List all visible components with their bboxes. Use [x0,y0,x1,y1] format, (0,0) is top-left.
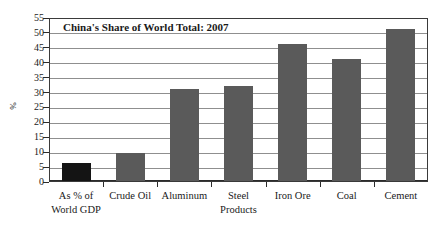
bar [170,89,199,181]
x-axis-tick-mark [374,182,375,187]
y-axis-tick-mark [43,18,49,19]
x-axis-category-label-line: Crude Oil [103,189,157,203]
chart-title: China's Share of World Total: 2007 [57,20,235,36]
x-axis-category-label-line: Products [211,203,265,217]
x-axis-category-label: SteelProducts [211,189,265,217]
bar [224,86,253,181]
y-axis-tick-mark [43,32,49,33]
x-axis-category-label-line: As % of [49,189,103,203]
x-axis-tick-mark [157,182,158,187]
x-axis-category-label: As % ofWorld GDP [49,189,103,217]
y-axis-tick-label: 45 [20,43,44,53]
y-axis-tick-label: 25 [20,102,44,112]
y-axis-tick-label: 40 [20,58,44,68]
x-axis-category-label: Iron Ore [266,189,320,203]
x-axis-tick-mark [320,182,321,187]
x-axis-tick-mark [266,182,267,187]
y-axis-tick-mark [43,107,49,108]
x-axis-category-label: Cement [374,189,428,203]
y-axis-tick-mark [43,137,49,138]
x-axis-category-labels: As % ofWorld GDPCrude OilAluminumSteelPr… [49,189,428,231]
bar [332,59,361,181]
bars-layer [49,18,428,182]
x-axis-category-label-line: Cement [374,189,428,203]
y-axis-tick-mark [43,62,49,63]
y-axis-tick-label: 35 [20,73,44,83]
bar-chart: % 0510152025303540455055 China's Share o… [0,0,436,233]
y-axis-tick-mark [43,77,49,78]
y-axis-tick-label: 50 [20,28,44,38]
y-axis-tick-mark [43,47,49,48]
x-axis-category-label-line: Coal [320,189,374,203]
y-axis-tick-mark [43,92,49,93]
y-axis-tick-mark [43,182,49,183]
x-axis-category-label: Crude Oil [103,189,157,203]
y-axis-tick-label: 30 [20,88,44,98]
y-axis-tick-label: 5 [20,162,44,172]
y-axis-tick-labels: 0510152025303540455055 [20,18,44,182]
x-axis-category-label-line: Steel [211,189,265,203]
y-axis-tick-mark [43,152,49,153]
y-axis-tick-mark [43,167,49,168]
x-axis-tick-mark [103,182,104,187]
x-axis-category-label-line: World GDP [49,203,103,217]
y-axis-tick-label: 15 [20,132,44,142]
x-axis-category-label: Coal [320,189,374,203]
bar [386,29,415,181]
y-axis-tick-label: 20 [20,117,44,127]
y-axis-tick-label: 0 [20,177,44,187]
x-axis-tick-mark [211,182,212,187]
bar [116,153,145,181]
y-axis-tick-label: 55 [20,13,44,23]
y-axis-tick-mark [43,122,49,123]
x-axis-category-label-line: Aluminum [157,189,211,203]
y-axis-tick-label: 10 [20,147,44,157]
x-axis-category-label: Aluminum [157,189,211,203]
bar [62,163,91,181]
x-axis-category-label-line: Iron Ore [266,189,320,203]
bar [278,44,307,181]
